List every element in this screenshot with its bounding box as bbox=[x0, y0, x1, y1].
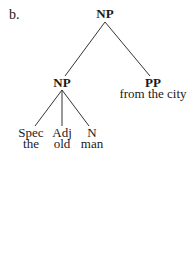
edge-np-n bbox=[62, 90, 89, 126]
edge-np-spec bbox=[35, 90, 62, 126]
tree-node-np-inner: NP bbox=[53, 77, 70, 88]
tree-node-spec: Spec the bbox=[18, 127, 43, 149]
tree-node-root: NP bbox=[96, 8, 113, 19]
edge-root-pp bbox=[105, 22, 150, 76]
node-category: NP bbox=[53, 77, 70, 88]
node-words: from the city bbox=[119, 88, 186, 99]
node-category: NP bbox=[96, 8, 113, 19]
tree-node-adj: Adj old bbox=[52, 127, 72, 149]
edge-root-np bbox=[65, 22, 105, 76]
node-words: man bbox=[81, 138, 103, 149]
tree-node-pp: PP from the city bbox=[119, 77, 186, 99]
node-words: old bbox=[52, 138, 72, 149]
tree-node-n: N man bbox=[81, 127, 103, 149]
